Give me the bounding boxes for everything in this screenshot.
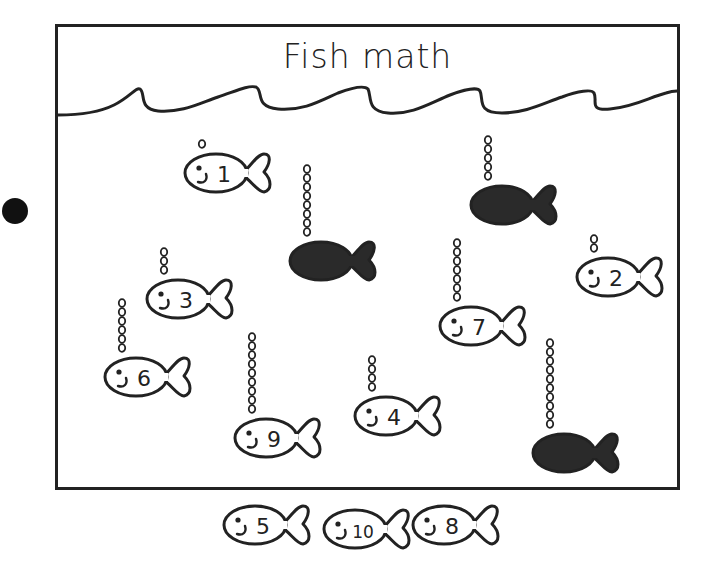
fish-dark xyxy=(533,339,618,472)
bubble-icon xyxy=(454,248,460,256)
bubble-icon xyxy=(304,165,310,173)
bubble-icon xyxy=(119,299,125,307)
fish-1: 1 xyxy=(185,140,270,192)
fish-eye-icon xyxy=(451,318,456,323)
bubble-icon xyxy=(199,140,205,148)
fish-eye-icon xyxy=(335,521,340,526)
bubble-icon xyxy=(249,369,255,377)
bubble-icon xyxy=(369,374,375,382)
fish-4: 4 xyxy=(355,356,440,435)
fish-number: 3 xyxy=(179,288,193,313)
fish-number: 2 xyxy=(609,266,623,291)
fish-eye-icon xyxy=(246,430,251,435)
bubble-icon xyxy=(454,275,460,283)
bubble-icon xyxy=(249,360,255,368)
fish-eye-icon xyxy=(196,165,201,170)
bubble-icon xyxy=(119,326,125,334)
bubble-icon xyxy=(547,393,553,401)
bubble-icon xyxy=(485,145,491,153)
bubble-icon xyxy=(547,402,553,410)
fish-number: 8 xyxy=(445,514,459,539)
bubble-icon xyxy=(454,293,460,301)
bubble-icon xyxy=(161,248,167,256)
bubble-icon xyxy=(485,172,491,180)
answer-fish-8[interactable]: 8 xyxy=(413,506,498,544)
bubble-icon xyxy=(249,387,255,395)
bubble-icon xyxy=(591,244,597,252)
bubble-icon xyxy=(249,405,255,413)
fish-7: 7 xyxy=(440,239,525,345)
bubble-icon xyxy=(454,284,460,292)
bubble-icon xyxy=(454,266,460,274)
bubble-icon xyxy=(454,239,460,247)
fish-2: 2 xyxy=(577,235,662,296)
bubble-icon xyxy=(304,201,310,209)
answer-fish-10[interactable]: 10 xyxy=(324,510,409,548)
fish-number: 10 xyxy=(352,522,374,542)
bubble-icon xyxy=(119,317,125,325)
fish-number: 5 xyxy=(256,514,270,539)
bubble-icon xyxy=(304,219,310,227)
fish-dark xyxy=(290,165,375,280)
bubble-icon xyxy=(547,411,553,419)
bubble-icon xyxy=(547,420,553,428)
answer-fish-5[interactable]: 5 xyxy=(224,506,309,544)
bubble-icon xyxy=(369,365,375,373)
bubble-icon xyxy=(304,183,310,191)
bubble-icon xyxy=(547,339,553,347)
bubble-icon xyxy=(547,348,553,356)
fish-9: 9 xyxy=(235,333,320,457)
fish-eye-icon xyxy=(235,517,240,522)
bubble-icon xyxy=(547,375,553,383)
bubble-icon xyxy=(304,192,310,200)
bubble-icon xyxy=(249,396,255,404)
bubble-icon xyxy=(454,257,460,265)
fish-number: 4 xyxy=(387,405,401,430)
bubble-icon xyxy=(304,174,310,182)
fish-scene: 12376495108 xyxy=(0,0,718,567)
bubble-icon xyxy=(485,163,491,171)
fish-number: 6 xyxy=(137,366,151,391)
bubble-icon xyxy=(304,228,310,236)
bubble-icon xyxy=(591,235,597,243)
fish-3: 3 xyxy=(147,248,232,318)
bubble-icon xyxy=(249,333,255,341)
bubble-icon xyxy=(369,383,375,391)
bubble-icon xyxy=(547,384,553,392)
bubble-icon xyxy=(547,366,553,374)
fish-number: 1 xyxy=(217,162,231,187)
fish-eye-icon xyxy=(366,408,371,413)
bubble-icon xyxy=(249,378,255,386)
bubble-icon xyxy=(369,356,375,364)
bubble-icon xyxy=(249,351,255,359)
fish-eye-icon xyxy=(116,369,121,374)
bubble-icon xyxy=(161,257,167,265)
bubble-icon xyxy=(304,210,310,218)
bubble-icon xyxy=(119,335,125,343)
bubble-icon xyxy=(485,136,491,144)
bubble-icon xyxy=(547,357,553,365)
bubble-icon xyxy=(485,154,491,162)
fish-number: 7 xyxy=(472,315,486,340)
bubble-icon xyxy=(119,308,125,316)
fish-eye-icon xyxy=(588,269,593,274)
fish-eye-icon xyxy=(158,291,163,296)
fish-number: 9 xyxy=(267,427,281,452)
bubble-icon xyxy=(249,342,255,350)
fish-eye-icon xyxy=(424,517,429,522)
bubble-icon xyxy=(119,344,125,352)
fish-dark xyxy=(471,136,556,224)
bubble-icon xyxy=(161,266,167,274)
